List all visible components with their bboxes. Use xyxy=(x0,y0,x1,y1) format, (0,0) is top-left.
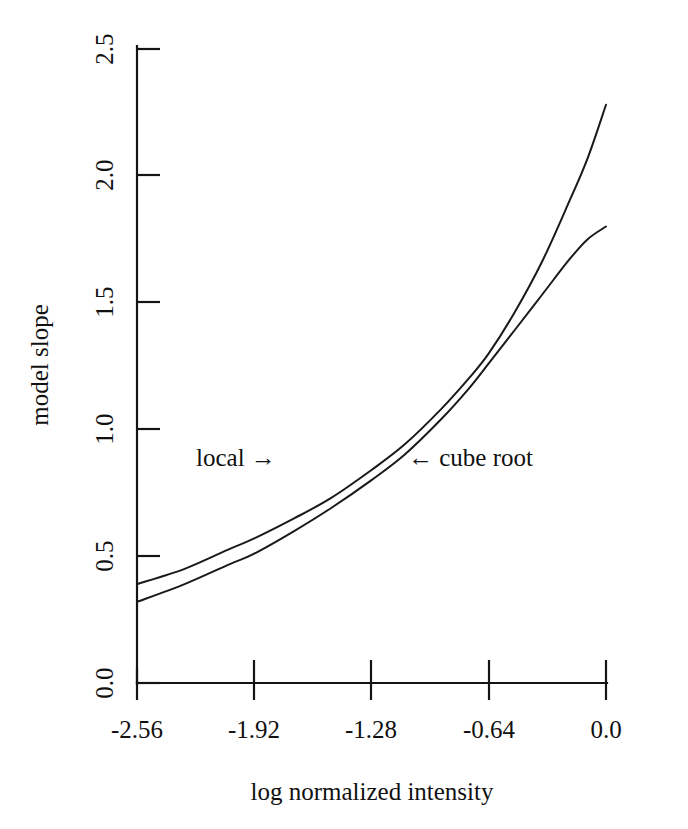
annotation-cube-root: ← cube root xyxy=(408,444,533,471)
y-tick-label-5: 2.5 xyxy=(91,33,118,64)
x-tick-label-0: -2.56 xyxy=(111,716,163,743)
x-tick-label-3: -0.64 xyxy=(463,716,516,743)
x-tick-label-1: -1.92 xyxy=(228,716,280,743)
y-tick-label-2: 1.0 xyxy=(91,413,118,444)
model-slope-line-chart: 0.0 0.5 1.0 1.5 2.0 2.5 -2.56 -1.92 -1.2… xyxy=(0,0,688,829)
chart-figure: 0.0 0.5 1.0 1.5 2.0 2.5 -2.56 -1.92 -1.2… xyxy=(0,0,688,829)
curve-cube-root xyxy=(137,105,606,584)
y-tick-label-4: 2.0 xyxy=(91,159,118,190)
y-tick-label-0: 0.0 xyxy=(91,667,118,698)
x-tick-label-2: -1.28 xyxy=(345,716,397,743)
curve-local xyxy=(137,227,606,602)
x-axis-title: log normalized intensity xyxy=(250,778,494,805)
annotation-local: local → xyxy=(196,444,276,471)
y-tick-label-1: 0.5 xyxy=(91,540,118,571)
y-tick-label-3: 1.5 xyxy=(91,286,118,317)
x-tick-label-4: 0.0 xyxy=(590,716,621,743)
y-axis-title: model slope xyxy=(26,304,53,426)
